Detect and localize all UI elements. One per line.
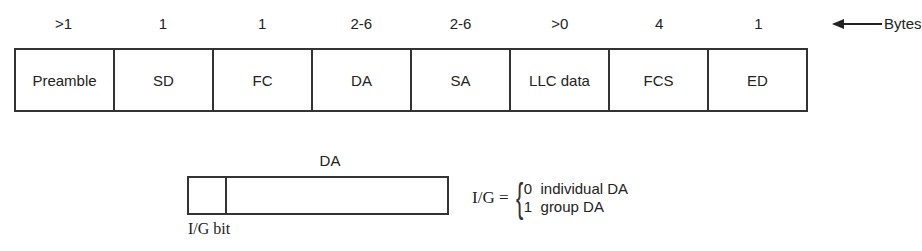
field-llc-data: LLC data — [511, 50, 610, 110]
field-preamble: Preamble — [16, 50, 115, 110]
field-size: >1 — [14, 14, 113, 34]
field-sd: SD — [115, 50, 214, 110]
brace-icon: { — [516, 178, 523, 218]
legend-option: 0 individual DA — [524, 180, 628, 198]
field-fcs: FCS — [610, 50, 709, 110]
units-annotation: Bytes — [774, 14, 922, 34]
field-size: >0 — [510, 14, 609, 34]
units-label: Bytes — [884, 14, 922, 34]
field-size: 1 — [213, 14, 312, 34]
field-sa: SA — [412, 50, 511, 110]
field-size: 2-6 — [411, 14, 510, 34]
field-size: 2-6 — [312, 14, 411, 34]
frame-format: Preamble SD FC DA SA LLC data FCS ED — [14, 48, 808, 112]
field-da: DA — [313, 50, 412, 110]
field-size-row: >1 1 1 2-6 2-6 >0 4 1 — [14, 14, 808, 34]
legend-option: 1 group DA — [524, 198, 628, 216]
field-size: 4 — [610, 14, 709, 34]
ig-bit-label: I/G bit — [188, 220, 230, 238]
field-ed: ED — [709, 50, 806, 110]
da-detail-box — [187, 176, 449, 215]
da-detail-title: DA — [300, 152, 360, 169]
field-fc: FC — [214, 50, 313, 110]
arrow-left-icon — [834, 23, 882, 25]
ig-bit-divider — [225, 178, 227, 213]
legend-lhs: I/G = — [472, 188, 509, 208]
field-size: 1 — [113, 14, 212, 34]
ig-legend: I/G = { 0 individual DA 1 group DA — [472, 178, 628, 218]
